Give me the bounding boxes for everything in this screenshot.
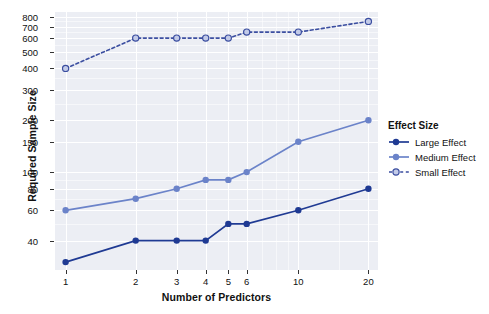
x-tick-label: 5 — [226, 276, 231, 287]
y-tick-mark — [50, 17, 54, 18]
legend-item[interactable]: Medium Effect — [388, 150, 488, 164]
series-layer — [55, 12, 378, 270]
data-point — [133, 35, 139, 41]
series-line — [66, 189, 369, 262]
series-small-effect — [63, 18, 372, 71]
y-tick-label: 600 — [22, 33, 38, 44]
x-tick-label: 10 — [293, 276, 304, 287]
legend-title: Effect Size — [388, 120, 488, 131]
data-point — [244, 169, 250, 175]
data-point — [174, 237, 180, 243]
data-point — [133, 196, 139, 202]
data-point — [365, 186, 371, 192]
y-tick-mark — [50, 241, 54, 242]
data-point — [62, 207, 68, 213]
y-tick-mark — [50, 38, 54, 39]
y-axis-title: Required Sample Size — [26, 51, 38, 241]
data-point — [203, 237, 209, 243]
x-tick-label: 3 — [174, 276, 179, 287]
x-tick-mark — [177, 270, 178, 274]
x-tick-label: 4 — [203, 276, 208, 287]
y-tick-mark — [50, 210, 54, 211]
data-point — [203, 35, 209, 41]
legend-key-icon — [388, 135, 410, 149]
y-axis-ticks: 406080100150200300400500600700800 — [0, 12, 48, 270]
data-point — [295, 207, 301, 213]
chart-container: 406080100150200300400500600700800 123456… — [0, 0, 489, 314]
y-tick-mark — [50, 68, 54, 69]
data-point — [225, 35, 231, 41]
series-medium-effect — [62, 117, 371, 214]
x-tick-label: 6 — [244, 276, 249, 287]
data-point — [203, 177, 209, 183]
data-point — [174, 35, 180, 41]
x-tick-mark — [66, 270, 67, 274]
y-tick-mark — [50, 189, 54, 190]
x-tick-mark — [247, 270, 248, 274]
legend-item-label: Small Effect — [415, 167, 466, 178]
y-tick-mark — [50, 90, 54, 91]
data-point — [225, 177, 231, 183]
data-point — [365, 117, 371, 123]
series-line — [66, 120, 369, 210]
x-tick-mark — [136, 270, 137, 274]
data-point — [225, 221, 231, 227]
y-tick-mark — [50, 120, 54, 121]
x-tick-mark — [298, 270, 299, 274]
data-point — [133, 237, 139, 243]
x-tick-label: 2 — [133, 276, 138, 287]
data-point — [244, 221, 250, 227]
data-point — [365, 18, 371, 24]
x-tick-label: 20 — [363, 276, 374, 287]
x-axis-title: Number of Predictors — [55, 291, 378, 303]
y-tick-mark — [50, 172, 54, 173]
legend-key-icon — [388, 150, 410, 164]
x-tick-label: 1 — [63, 276, 68, 287]
y-tick-label: 800 — [22, 11, 38, 22]
legend-item-label: Medium Effect — [415, 152, 476, 163]
series-line — [66, 21, 369, 68]
legend-item[interactable]: Small Effect — [388, 165, 488, 179]
data-point — [62, 259, 68, 265]
data-point — [295, 29, 301, 35]
data-point — [244, 29, 250, 35]
series-large-effect — [62, 186, 371, 266]
y-tick-mark — [50, 142, 54, 143]
legend-items: Large EffectMedium EffectSmall Effect — [388, 135, 488, 179]
y-tick-mark — [50, 52, 54, 53]
legend: Effect Size Large EffectMedium EffectSma… — [388, 120, 488, 180]
x-tick-mark — [368, 270, 369, 274]
legend-item[interactable]: Large Effect — [388, 135, 488, 149]
data-point — [63, 65, 69, 71]
legend-key-icon — [388, 165, 410, 179]
x-tick-mark — [228, 270, 229, 274]
y-tick-label: 700 — [22, 21, 38, 32]
y-tick-mark — [50, 27, 54, 28]
legend-item-label: Large Effect — [415, 137, 466, 148]
x-tick-mark — [206, 270, 207, 274]
data-point — [295, 139, 301, 145]
data-point — [174, 186, 180, 192]
plot-panel — [55, 12, 378, 270]
